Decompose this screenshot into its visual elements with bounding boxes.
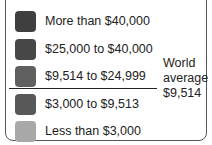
legend-item: $3,000 to $9,513: [15, 93, 139, 115]
legend-label: $9,514 to $24,999: [45, 69, 146, 83]
legend-item: Less than $3,000: [15, 120, 141, 142]
legend-label: $3,000 to $9,513: [45, 97, 139, 111]
world-average-divider: [9, 88, 157, 89]
annotation-line: World: [163, 56, 208, 71]
legend-swatch: [15, 11, 36, 32]
legend-label: Less than $3,000: [45, 124, 141, 138]
legend-label: $25,000 to $40,000: [45, 42, 153, 56]
legend-item: More than $40,000: [15, 10, 150, 32]
legend-label: More than $40,000: [45, 14, 150, 28]
legend-swatch: [15, 94, 36, 115]
annotation-line: $9,514: [163, 86, 208, 101]
world-average-annotation: World average $9,514: [163, 56, 208, 101]
legend-swatch: [15, 39, 36, 60]
legend-swatch: [15, 121, 36, 142]
legend-item: $25,000 to $40,000: [15, 38, 153, 60]
legend-swatch: [15, 66, 36, 87]
annotation-line: average: [163, 71, 208, 86]
legend-item: $9,514 to $24,999: [15, 65, 146, 87]
